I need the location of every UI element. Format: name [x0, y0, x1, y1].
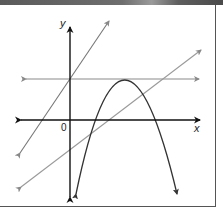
shallow-line — [21, 50, 201, 187]
graph-canvas — [0, 0, 223, 215]
steep-line — [20, 21, 109, 153]
parabola — [76, 80, 177, 194]
origin-label: 0 — [61, 122, 67, 133]
y-axis-label: y — [60, 17, 66, 29]
x-axis-label: x — [194, 122, 200, 134]
